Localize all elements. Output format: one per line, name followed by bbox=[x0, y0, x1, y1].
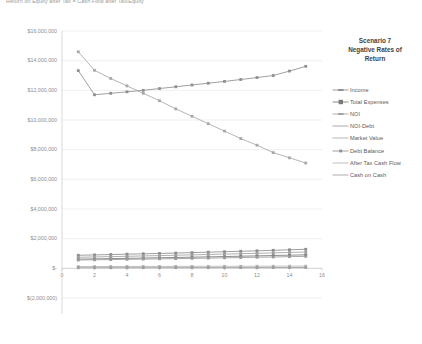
legend-item-label: Income bbox=[349, 87, 369, 93]
series-marker bbox=[109, 92, 112, 95]
series-marker bbox=[256, 252, 259, 255]
legend-swatch-icon bbox=[332, 97, 349, 107]
series-marker bbox=[239, 256, 242, 259]
legend-item-label: Total Expenses bbox=[349, 99, 389, 105]
series-marker bbox=[239, 250, 242, 253]
series-marker bbox=[256, 76, 259, 79]
series-marker bbox=[256, 144, 259, 147]
series-marker bbox=[77, 50, 80, 53]
series-marker bbox=[223, 256, 226, 259]
series-marker bbox=[174, 85, 177, 88]
legend-item-label: Cash on Cash bbox=[349, 172, 386, 178]
series-marker bbox=[126, 258, 129, 261]
series-marker bbox=[126, 255, 129, 258]
series-marker bbox=[174, 257, 177, 260]
legend-swatch-icon bbox=[332, 85, 349, 95]
legend-swatch-icon bbox=[332, 158, 349, 168]
series-marker bbox=[126, 266, 129, 269]
series-marker bbox=[109, 255, 112, 258]
legend-swatch-icon bbox=[332, 109, 349, 119]
series-marker bbox=[272, 74, 275, 77]
series-marker bbox=[126, 84, 129, 87]
chart-root: Return on Equity after Tax = Cash Flow a… bbox=[0, 0, 422, 344]
series-marker bbox=[239, 252, 242, 255]
series-marker bbox=[304, 251, 307, 254]
series-marker bbox=[174, 254, 177, 257]
series-marker bbox=[256, 249, 259, 252]
legend-item[interactable]: After Tax Cash Flow bbox=[332, 157, 420, 169]
series-marker bbox=[142, 89, 145, 92]
series-marker bbox=[109, 266, 112, 269]
series-marker bbox=[223, 253, 226, 256]
series-marker bbox=[109, 258, 112, 261]
series-marker bbox=[256, 256, 259, 259]
series-marker bbox=[207, 266, 210, 269]
legend-item-label: Debt Balance bbox=[349, 148, 384, 154]
series-marker bbox=[93, 69, 96, 72]
series-marker bbox=[272, 266, 275, 269]
series-marker bbox=[288, 251, 291, 254]
legend-item[interactable]: Cash on Cash bbox=[332, 169, 420, 181]
series-marker bbox=[288, 255, 291, 258]
series-marker bbox=[158, 266, 161, 269]
series-marker bbox=[223, 80, 226, 83]
legend-swatch-icon bbox=[332, 133, 349, 143]
series-marker bbox=[272, 151, 275, 154]
series-marker bbox=[174, 107, 177, 110]
legend-title-line-1: Scenario 7 bbox=[332, 36, 418, 45]
series-marker bbox=[304, 266, 307, 269]
series-marker bbox=[142, 266, 145, 269]
series-marker bbox=[77, 259, 80, 262]
legend-title-line-3: Return bbox=[332, 54, 418, 63]
series-marker bbox=[288, 266, 291, 269]
legend-item-label: After Tax Cash Flow bbox=[349, 160, 401, 166]
legend-item[interactable]: Debt Balance bbox=[332, 144, 420, 156]
series-marker bbox=[191, 266, 194, 269]
series-marker bbox=[207, 82, 210, 85]
series-marker bbox=[272, 249, 275, 252]
legend-title-line-2: Negative Rates of bbox=[332, 45, 418, 54]
series-marker bbox=[272, 256, 275, 259]
series-marker bbox=[158, 87, 161, 90]
series-marker bbox=[207, 122, 210, 125]
legend-swatch-icon bbox=[332, 146, 349, 156]
series-line bbox=[78, 52, 306, 163]
legend-title: Scenario 7 Negative Rates of Return bbox=[332, 36, 418, 64]
series-marker bbox=[191, 115, 194, 118]
series-marker bbox=[272, 251, 275, 254]
legend-item-label: NOI bbox=[349, 111, 360, 117]
series-marker bbox=[304, 162, 307, 165]
series-marker bbox=[223, 266, 226, 269]
series-marker bbox=[158, 257, 161, 260]
legend-item[interactable]: Income bbox=[332, 84, 420, 96]
legend-item-label: NOI-Debt bbox=[349, 123, 374, 129]
series-marker bbox=[93, 258, 96, 261]
series-marker bbox=[304, 248, 307, 251]
series-marker bbox=[191, 84, 194, 87]
series-marker bbox=[158, 99, 161, 102]
legend-item[interactable]: NOI-Debt bbox=[332, 120, 420, 132]
legend-item[interactable]: Total Expenses bbox=[332, 96, 420, 108]
series-marker bbox=[142, 92, 145, 95]
series-marker bbox=[174, 266, 177, 269]
series-marker bbox=[239, 78, 242, 81]
series-marker bbox=[223, 130, 226, 133]
series-marker bbox=[77, 69, 80, 72]
legend-item[interactable]: Market Value bbox=[332, 132, 420, 144]
series-marker bbox=[256, 266, 259, 269]
series-marker bbox=[109, 77, 112, 80]
series-marker bbox=[288, 70, 291, 73]
legend-swatch-icon bbox=[332, 121, 349, 131]
series-marker bbox=[191, 253, 194, 256]
series-marker bbox=[77, 256, 80, 259]
series-marker bbox=[93, 256, 96, 259]
legend: IncomeTotal ExpensesNOINOI-DebtMarket Va… bbox=[332, 84, 420, 181]
series-marker bbox=[207, 253, 210, 256]
legend-swatch-icon bbox=[332, 170, 349, 180]
series-marker bbox=[207, 257, 210, 260]
series-marker bbox=[158, 254, 161, 257]
series-marker bbox=[288, 248, 291, 251]
series-marker bbox=[288, 156, 291, 159]
legend-item[interactable]: NOI bbox=[332, 108, 420, 120]
series-marker bbox=[142, 258, 145, 261]
